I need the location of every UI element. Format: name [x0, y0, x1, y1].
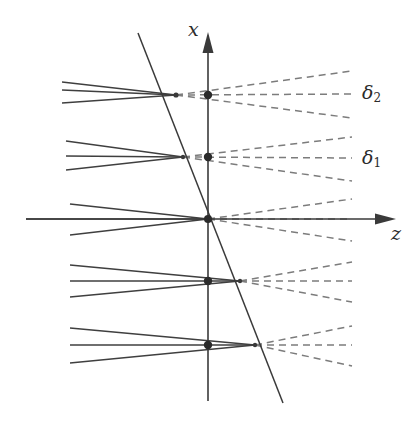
dashed-ray-bundle-bottom-0 [255, 326, 352, 345]
solid-ray-bundle-upper-mid-0 [66, 141, 183, 157]
solid-ray-bundle-bottom-0 [70, 328, 255, 345]
solid-ray-bundle-center-2 [70, 219, 208, 235]
solid-ray-bundle-upper-mid-1 [66, 156, 183, 157]
axis-intersection-dot-bundle-upper-mid [204, 153, 212, 161]
delta1-subscript: 1 [373, 156, 381, 170]
z-axis-label: z [391, 224, 401, 243]
solid-ray-bundle-upper-mid-2 [66, 157, 183, 170]
delta1-glyph: δ [362, 146, 373, 168]
solid-ray-bundle-lower-mid-2 [70, 281, 240, 297]
focus-point-dot-bundle-top [173, 92, 178, 97]
focus-point-dot-bundle-bottom [253, 343, 257, 347]
dashed-ray-bundle-bottom-2 [255, 345, 352, 366]
x-axis-label: x [188, 20, 199, 39]
ray-bundle-bundle-center [26, 199, 352, 241]
dashed-ray-bundle-top-1 [176, 94, 352, 95]
ray-diagram-figure: x z δ2 δ1 [0, 0, 420, 428]
dashed-ray-bundle-lower-mid-0 [240, 262, 352, 281]
focus-dots-layer [173, 91, 257, 349]
solid-ray-bundle-bottom-2 [70, 345, 255, 363]
dashed-ray-bundle-center-0 [208, 199, 352, 219]
solid-ray-bundle-top-2 [62, 95, 176, 103]
diagram-canvas [0, 0, 420, 428]
axis-intersection-dot-bundle-center [204, 215, 212, 223]
focus-point-dot-bundle-upper-mid [181, 155, 185, 159]
x-axis-arrowhead-icon [203, 32, 214, 53]
delta1-label: δ1 [362, 148, 381, 169]
delta2-subscript: 2 [373, 91, 381, 105]
dashed-ray-bundle-top-2 [176, 95, 352, 118]
solid-ray-bundle-center-0 [70, 204, 208, 219]
delta2-glyph: δ [362, 81, 373, 103]
axis-intersection-dot-bundle-lower-mid [204, 277, 212, 285]
dashed-ray-bundle-top-0 [176, 71, 352, 95]
dashed-ray-bundle-center-2 [208, 219, 352, 241]
focus-point-dot-bundle-lower-mid [238, 279, 242, 283]
delta2-label: δ2 [362, 83, 381, 104]
axis-intersection-dot-bundle-top [204, 91, 212, 99]
solid-ray-bundle-lower-mid-0 [70, 265, 240, 281]
dashed-ray-bundle-lower-mid-2 [240, 281, 352, 302]
axis-intersection-dot-bundle-bottom [204, 341, 212, 349]
